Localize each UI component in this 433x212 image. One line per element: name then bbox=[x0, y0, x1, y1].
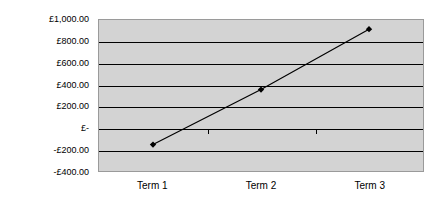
y-axis-tick-label: £600.00 bbox=[0, 59, 89, 68]
y-axis-tick-label: £800.00 bbox=[0, 37, 89, 46]
y-axis-tick-label: £1,000.00 bbox=[0, 15, 89, 24]
x-axis-category-label: Term 1 bbox=[98, 180, 207, 200]
y-axis-tick-label: £- bbox=[0, 124, 89, 133]
x-axis-category-label: Term 2 bbox=[207, 180, 316, 200]
x-axis: Term 1Term 2Term 3 bbox=[98, 180, 424, 200]
y-axis-tick-label: £200.00 bbox=[0, 102, 89, 111]
plot-area bbox=[98, 19, 424, 172]
y-axis-tick-label: -£200.00 bbox=[0, 146, 89, 155]
x-axis-category-label: Term 3 bbox=[315, 180, 424, 200]
y-axis-tick-label: £400.00 bbox=[0, 81, 89, 90]
y-axis: £1,000.00£800.00£600.00£400.00£200.00£--… bbox=[0, 0, 92, 212]
y-axis-tick-label: -£400.00 bbox=[0, 168, 89, 177]
data-point-marker bbox=[366, 26, 372, 32]
data-point-marker bbox=[150, 141, 156, 147]
series-line-group bbox=[99, 20, 423, 171]
data-point-marker bbox=[258, 86, 264, 92]
line-chart: £1,000.00£800.00£600.00£400.00£200.00£--… bbox=[0, 0, 433, 212]
